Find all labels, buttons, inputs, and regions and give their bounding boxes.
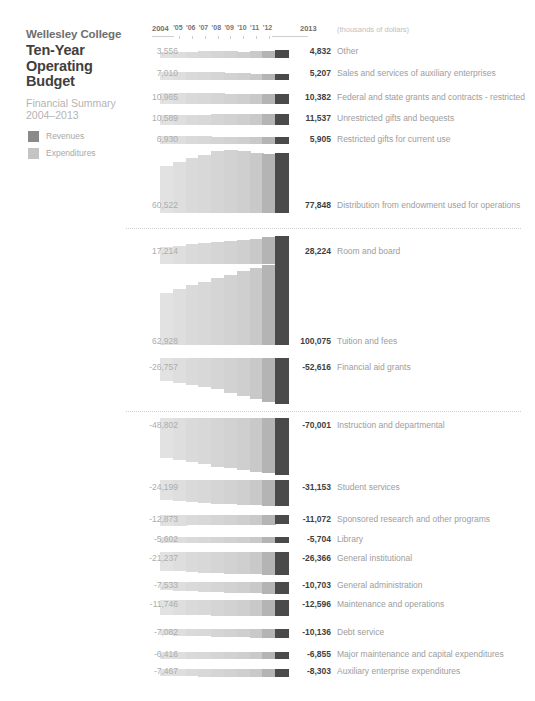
row-start-value: -11,746 (126, 599, 178, 609)
bar-column (211, 480, 225, 504)
chart-row (0, 136, 535, 144)
bar-column (262, 265, 276, 345)
row-start-value: -5,602 (126, 534, 178, 544)
row-end-value: -6,855 (269, 649, 331, 659)
row-end-value: 5,905 (269, 134, 331, 144)
chart-row (0, 600, 535, 616)
bar-column (198, 418, 212, 464)
bar-column (237, 358, 251, 396)
bar-column (237, 480, 251, 505)
bar-column (198, 282, 212, 345)
row-end-value: 77,848 (269, 200, 331, 210)
row-label: Maintenance and operations (337, 599, 444, 609)
row-label: Unrestricted gifts and bequests (337, 113, 454, 123)
bar-column (198, 358, 212, 387)
bar-column (198, 669, 212, 677)
row-label: Sales and services of auxiliary enterpri… (337, 68, 496, 78)
bar-column (237, 114, 251, 125)
bar-column (211, 93, 225, 104)
chart-row (0, 552, 535, 575)
row-end-value: -5,704 (269, 534, 331, 544)
bar-column (211, 652, 225, 659)
row-end-value: 4,832 (269, 46, 331, 56)
row-start-value: 10,589 (126, 113, 178, 123)
bar-column (237, 652, 251, 659)
bar-column (224, 51, 238, 58)
row-end-value: -10,136 (269, 627, 331, 637)
bar-column (237, 52, 251, 58)
bar-column (198, 600, 212, 615)
bar-column (237, 515, 251, 525)
row-label: Major maintenance and capital expenditur… (337, 649, 504, 659)
bar-column (224, 669, 238, 677)
row-label: Sponsored research and other programs (337, 514, 490, 524)
chart-row (0, 262, 535, 345)
row-start-value: -7,467 (126, 666, 178, 676)
bar-column (237, 582, 251, 593)
row-end-value: -31,153 (269, 482, 331, 492)
chart-row (0, 114, 535, 125)
bar-column (211, 669, 225, 677)
bar-column (224, 552, 238, 574)
bar-column (198, 51, 212, 58)
bar-column (198, 652, 212, 659)
bar-column (211, 358, 225, 389)
bar-column (224, 358, 238, 393)
bar-column (198, 136, 212, 144)
row-end-value: -12,596 (269, 599, 331, 609)
row-label: Tuition and fees (337, 336, 397, 346)
row-start-value: -21,237 (126, 553, 178, 563)
section-separator (126, 228, 521, 229)
bar-column (237, 73, 251, 80)
bar-column (237, 271, 251, 345)
bar-column (237, 537, 251, 543)
row-start-value: 6,930 (126, 134, 178, 144)
bar-column (224, 418, 238, 468)
bar-column (211, 151, 225, 213)
row-start-value: 3,556 (126, 46, 178, 56)
bar-column (211, 629, 225, 637)
chart-row (0, 236, 535, 264)
row-start-value: -7,082 (126, 627, 178, 637)
row-end-value: 11,537 (269, 113, 331, 123)
row-label: General institutional (337, 553, 412, 563)
row-label: Auxiliary enterprise expenditures (337, 666, 460, 676)
bar-column (198, 155, 212, 213)
chart-area: 3,5564,832Other7,0105,207Sales and servi… (0, 0, 535, 701)
row-end-value: -10,703 (269, 580, 331, 590)
row-start-value: -12,873 (126, 514, 178, 524)
row-start-value: -26,757 (126, 362, 178, 372)
chart-row (0, 480, 535, 506)
row-end-value: 28,224 (269, 246, 331, 256)
row-label: General administration (337, 580, 423, 590)
bar-column (224, 73, 238, 80)
bar-column (198, 552, 212, 573)
row-label: Financial aid grants (337, 362, 411, 372)
bar-column (211, 418, 225, 467)
bar-column (237, 669, 251, 677)
bar-column (237, 94, 251, 104)
row-end-value: -8,303 (269, 666, 331, 676)
bar-column (224, 275, 238, 345)
bar-column (198, 515, 212, 525)
section-separator (126, 411, 521, 412)
row-end-value: -26,366 (269, 553, 331, 563)
chart-row (0, 50, 535, 58)
row-start-value: 60,522 (126, 200, 178, 210)
bar-column (224, 137, 238, 144)
bar-column (198, 537, 212, 543)
bar-column (211, 51, 225, 58)
row-end-value: -11,072 (269, 514, 331, 524)
bar-column (224, 515, 238, 525)
row-start-value: -24,199 (126, 482, 178, 492)
row-label: Debt service (337, 627, 384, 637)
chart-row (0, 629, 535, 638)
row-start-value: -6,416 (126, 649, 178, 659)
bar-column (198, 72, 212, 80)
bar-column (211, 537, 225, 543)
bar-column (224, 480, 238, 504)
row-label: Distribution from endowment used for ope… (337, 200, 520, 210)
bar-column (237, 629, 251, 637)
bar-column (237, 151, 251, 213)
row-label: Student services (337, 482, 400, 492)
